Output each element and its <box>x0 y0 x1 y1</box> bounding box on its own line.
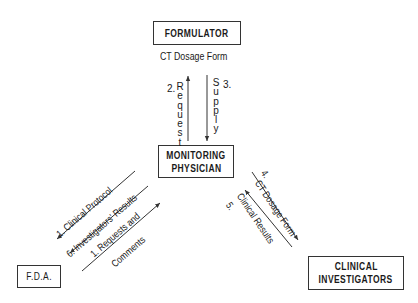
formulator-box: FORMULATOR <box>153 21 241 45</box>
supply-vertical-label: S u p p l y <box>212 78 220 134</box>
clinical-investigators-box: CLINICAL INVESTIGATORS <box>308 256 404 290</box>
monitoring-physician-line1: MONITORING <box>166 149 225 162</box>
request-vertical-label: R e q u e s t <box>176 82 184 147</box>
supply-number: 3. <box>223 79 231 90</box>
clinical-investigators-line1: CLINICAL <box>334 260 377 273</box>
fda-label: F.D.A. <box>26 270 52 283</box>
clinical-investigators-line2: INVESTIGATORS <box>319 273 393 286</box>
monitoring-physician-line2: PHYSICIAN <box>171 162 221 175</box>
formulator-caption: CT Dosage Form <box>160 51 227 62</box>
monitoring-physician-box: MONITORING PHYSICIAN <box>158 145 234 178</box>
fda-box: F.D.A. <box>17 265 61 288</box>
formulator-label: FORMULATOR <box>165 27 229 40</box>
request-number: 2. <box>167 83 175 94</box>
